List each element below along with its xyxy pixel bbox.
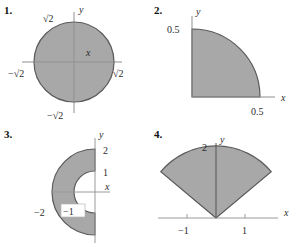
x-axis-label-3: x bbox=[104, 181, 110, 192]
shaded-quarter-disk-2 bbox=[192, 29, 260, 97]
problem-panel-1: 1. x y √2 √2 −√2 −√2 bbox=[0, 0, 149, 123]
y-axis-label-2: y bbox=[195, 6, 201, 17]
problem-panel-2: 2. x y 0.5 0.5 bbox=[150, 0, 299, 123]
figure-1-circle: x y √2 √2 −√2 −√2 bbox=[0, 0, 149, 123]
problem-number-4: 4. bbox=[154, 128, 162, 140]
x-axis-label-1: x bbox=[85, 47, 91, 58]
problem-number-1: 1. bbox=[4, 4, 12, 16]
label-right-2: 0.5 bbox=[251, 106, 264, 117]
problem-number-2: 2. bbox=[154, 4, 162, 16]
figure-4-sector: x y 2 −1 1 bbox=[150, 124, 299, 247]
y-axis-label-3: y bbox=[98, 129, 104, 140]
figure-sheet: 1. x y √2 √2 −√2 −√2 2. x y bbox=[0, 0, 299, 247]
label-bottom-1: −√2 bbox=[47, 110, 63, 121]
problem-panel-4: 4. x y 2 −1 1 bbox=[150, 124, 299, 247]
label-top-2: 0.5 bbox=[167, 24, 180, 35]
label-right-1: √2 bbox=[113, 68, 124, 79]
y-axis-label-4: y bbox=[219, 134, 225, 145]
problem-panel-3: 3. y x 2 1 −2 −1 bbox=[0, 124, 149, 247]
problem-number-3: 3. bbox=[4, 128, 12, 140]
figure-3-half-annulus: y x 2 1 −2 −1 bbox=[0, 124, 149, 247]
figure-2-quarter-disk: x y 0.5 0.5 bbox=[150, 0, 299, 123]
label-tick-left-4: −1 bbox=[178, 225, 189, 236]
x-axis-label-2: x bbox=[280, 92, 286, 103]
label-outer-left-3: −2 bbox=[34, 207, 45, 218]
label-outer-top-3: 2 bbox=[103, 145, 108, 156]
label-inner-top-3: 1 bbox=[103, 167, 108, 178]
label-left-1: −√2 bbox=[8, 68, 24, 79]
y-axis-label-1: y bbox=[78, 4, 84, 15]
x-axis-label-4: x bbox=[283, 207, 289, 218]
label-top-4: 2 bbox=[202, 142, 207, 153]
label-top-1: √2 bbox=[43, 13, 54, 24]
label-tick-right-4: 1 bbox=[242, 225, 247, 236]
label-inner-left-3: −1 bbox=[63, 206, 74, 217]
